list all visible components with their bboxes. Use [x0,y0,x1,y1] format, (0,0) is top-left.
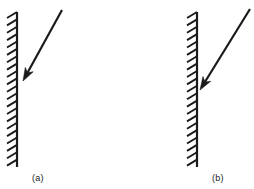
hatch-mark [187,101,197,107]
hatch-mark [7,101,17,107]
wall-hatching-a [7,12,17,166]
hatch-mark [187,42,197,48]
hatch-mark [187,12,197,18]
arrow-shaft-b [205,9,250,82]
hatch-mark [187,49,197,55]
hatch-mark [187,130,197,136]
hatch-mark [187,93,197,99]
panel-a [7,10,62,167]
hatch-mark [7,152,17,158]
hatch-mark [7,115,17,121]
arrow-head-b [200,77,211,90]
hatch-mark [187,137,197,143]
hatch-mark [187,115,197,121]
hatch-mark [187,34,197,40]
hatch-mark [7,19,17,25]
hatch-mark [7,108,17,114]
hatch-mark [7,145,17,151]
hatch-mark [7,64,17,70]
physics-figure: (a) (b) [0,0,254,189]
hatch-mark [187,86,197,92]
hatch-mark [187,108,197,114]
panel-label-a: (a) [32,173,44,183]
hatch-mark [7,123,17,129]
hatch-mark [7,27,17,33]
wall-hatching-b [187,12,197,166]
hatch-mark [187,71,197,77]
hatch-mark [187,27,197,33]
panel-b [187,9,250,167]
figure-canvas [0,0,254,189]
hatch-mark [7,86,17,92]
hatch-mark [187,152,197,158]
hatch-mark [7,78,17,84]
hatch-mark [187,56,197,62]
hatch-mark [7,56,17,62]
hatch-mark [187,145,197,151]
hatch-mark [7,93,17,99]
hatch-mark [187,19,197,25]
hatch-mark [7,34,17,40]
hatch-mark [7,71,17,77]
hatch-mark [7,137,17,143]
hatch-mark [7,42,17,48]
hatch-mark [187,160,197,166]
hatch-mark [187,78,197,84]
hatch-mark [7,12,17,18]
hatch-mark [187,64,197,70]
panel-label-b: (b) [212,173,224,183]
hatch-mark [7,160,17,166]
hatch-mark [187,123,197,129]
hatch-mark [7,130,17,136]
arrow-shaft-a [28,10,62,73]
hatch-mark [7,49,17,55]
